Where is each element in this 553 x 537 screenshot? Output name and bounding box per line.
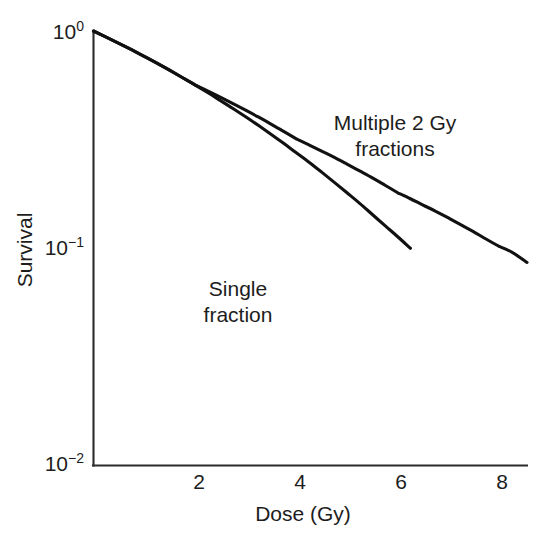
cell-survival-chart: 100 10−1 10−2 2 4 6 8 Dose (Gy) Survival… <box>0 0 553 537</box>
single-fraction-label-line1: Single <box>209 277 267 300</box>
x-tick-label-4: 4 <box>294 470 306 493</box>
y-axis-title: Survival <box>13 213 36 288</box>
x-tick-label-2: 2 <box>193 470 205 493</box>
x-axis-title: Dose (Gy) <box>255 502 351 525</box>
x-tick-label-6: 6 <box>395 470 407 493</box>
x-tick-label-8: 8 <box>496 470 508 493</box>
single-fraction-label-line2: fraction <box>204 303 273 326</box>
multiple-fractions-label-line2: fractions <box>355 137 434 160</box>
multiple-fractions-label-line1: Multiple 2 Gy <box>334 111 457 134</box>
